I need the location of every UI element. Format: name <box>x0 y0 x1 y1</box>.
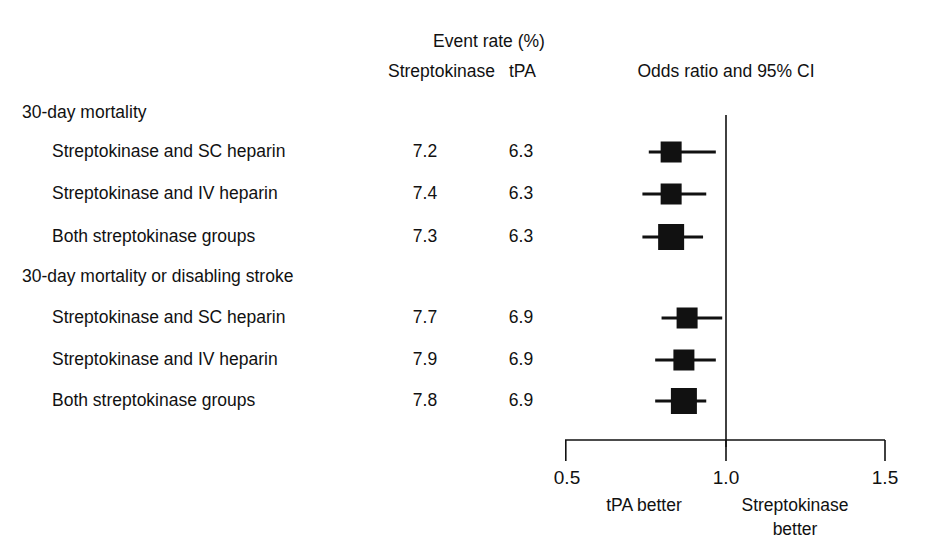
row-label: Both streptokinase groups <box>52 392 255 410</box>
row-value-streptokinase: 7.7 <box>413 309 437 327</box>
footnote-streptokinase-better-line2: better <box>773 521 818 539</box>
row-value-streptokinase: 7.4 <box>413 185 437 203</box>
row-value-tpa: 6.3 <box>509 143 533 161</box>
row-value-tpa: 6.3 <box>509 185 533 203</box>
row-value-streptokinase: 7.8 <box>413 392 437 410</box>
row-label: Streptokinase and IV heparin <box>52 185 278 203</box>
axis-tick-label-low: 0.5 <box>554 468 580 487</box>
row-value-streptokinase: 7.3 <box>413 228 437 246</box>
row-value-tpa: 6.9 <box>509 392 533 410</box>
pooled-estimate-marker <box>658 224 684 250</box>
point-estimate-marker <box>661 184 682 205</box>
axis-tick-label-mid: 1.0 <box>713 468 739 487</box>
row-value-tpa: 6.9 <box>509 351 533 369</box>
row-value-streptokinase: 7.9 <box>413 351 437 369</box>
point-estimate-marker <box>673 350 694 371</box>
x-axis <box>565 440 885 461</box>
row-label: Both streptokinase groups <box>52 228 255 246</box>
point-estimate-marker <box>661 142 682 163</box>
row-value-tpa: 6.3 <box>509 228 533 246</box>
footnote-tpa-better: tPA better <box>606 497 682 515</box>
forest-plot-figure: Event rate (%) Streptokinase tPA Odds ra… <box>0 0 929 546</box>
group-heading-mortality: 30-day mortality <box>22 104 147 122</box>
column-header-streptokinase: Streptokinase <box>388 63 495 81</box>
point-estimate-marker <box>677 308 698 329</box>
forest-markers <box>642 142 722 415</box>
plot-column-header: Odds ratio and 95% CI <box>637 63 814 81</box>
group-heading-mortality-or-stroke: 30-day mortality or disabling stroke <box>22 268 293 286</box>
pooled-estimate-marker <box>671 388 697 414</box>
footnote-streptokinase-better-line1: Streptokinase <box>741 497 848 515</box>
row-label: Streptokinase and IV heparin <box>52 351 278 369</box>
event-rate-header: Event rate (%) <box>433 33 545 51</box>
row-value-tpa: 6.9 <box>509 309 533 327</box>
row-value-streptokinase: 7.2 <box>413 143 437 161</box>
row-label: Streptokinase and SC heparin <box>52 143 285 161</box>
row-label: Streptokinase and SC heparin <box>52 309 285 327</box>
column-header-tpa: tPA <box>509 63 536 81</box>
axis-tick-label-high: 1.5 <box>872 468 898 487</box>
